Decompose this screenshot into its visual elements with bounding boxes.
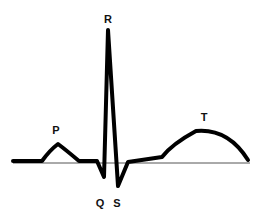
label-s: S [113,197,120,209]
label-p: P [52,124,59,136]
ecg-diagram: P R Q S T [0,0,263,220]
label-t: T [201,111,208,123]
label-r: R [104,13,112,25]
label-q: Q [96,197,105,209]
